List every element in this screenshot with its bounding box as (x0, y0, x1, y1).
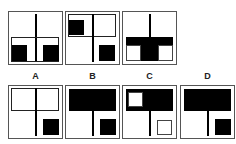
black-square-bottom-right (215, 119, 231, 135)
option-a[interactable] (8, 85, 63, 139)
black-center-block (141, 37, 158, 61)
sequence-panel-3 (122, 11, 177, 65)
black-square-top-left (69, 20, 84, 35)
sequence-panel-2 (65, 11, 120, 65)
black-square-bottom-right (100, 119, 116, 135)
black-square-right (43, 45, 59, 61)
white-square-top-left (128, 92, 143, 107)
option-label-b: B (65, 71, 120, 81)
black-square-bottom-right (99, 45, 115, 61)
black-square-left (12, 45, 27, 61)
white-square-bottom-right (157, 120, 172, 135)
option-label-d: D (180, 71, 235, 81)
option-label-c: C (122, 71, 177, 81)
vertical-line (92, 111, 94, 136)
option-c[interactable] (122, 85, 177, 139)
black-bar-top (184, 89, 231, 111)
white-square-left (126, 45, 141, 61)
vertical-line (149, 14, 151, 38)
white-square-right (158, 45, 173, 61)
option-b[interactable] (65, 85, 120, 139)
black-square-bottom-right (43, 119, 59, 135)
vertical-line (207, 111, 209, 136)
vertical-line (149, 111, 151, 136)
black-bar-top (69, 89, 116, 111)
sequence-panel-1 (8, 11, 63, 65)
vertical-line (35, 88, 37, 136)
option-d[interactable] (180, 85, 235, 139)
option-label-a: A (8, 71, 63, 81)
vertical-line (92, 14, 94, 62)
